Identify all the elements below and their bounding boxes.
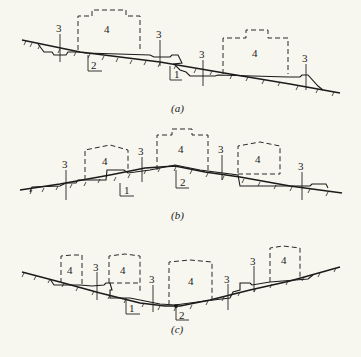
panel-b: 4 4 4 3 3 3 3 1 2 (b) <box>20 129 342 222</box>
caption-a: (a) <box>171 102 184 115</box>
label-4: 4 <box>67 264 73 276</box>
label-3: 3 <box>138 145 144 157</box>
label-2: 2 <box>91 59 97 71</box>
label-4: 4 <box>188 275 194 287</box>
terrace-section-diagram: 4 4 3 3 3 3 2 1 (a) 4 4 4 <box>0 0 361 357</box>
label-2: 2 <box>180 176 186 188</box>
label-4: 4 <box>178 143 184 155</box>
label-3: 3 <box>302 52 308 64</box>
panel-a: 4 4 3 3 3 3 2 1 (a) <box>22 10 340 115</box>
label-4: 4 <box>104 23 110 35</box>
caption-c: (c) <box>171 323 184 336</box>
label-3: 3 <box>156 28 162 40</box>
label-3: 3 <box>250 255 256 267</box>
label-3: 3 <box>149 273 155 285</box>
ground-line <box>22 40 340 93</box>
label-4: 4 <box>281 254 287 266</box>
label-1: 1 <box>129 302 135 314</box>
low-point-marker <box>174 304 178 308</box>
label-4: 4 <box>255 153 261 165</box>
label-3: 3 <box>224 273 230 285</box>
label-4: 4 <box>252 47 258 59</box>
label-3: 3 <box>56 22 62 34</box>
label-4: 4 <box>102 155 108 167</box>
label-1: 1 <box>174 68 180 80</box>
label-2: 2 <box>179 309 185 321</box>
label-1: 1 <box>124 184 130 196</box>
label-3: 3 <box>298 160 304 172</box>
label-3: 3 <box>218 143 224 155</box>
panel-c: 4 4 4 4 3 3 3 3 1 2 (c) <box>22 246 340 336</box>
caption-b: (b) <box>171 209 184 222</box>
label-4: 4 <box>120 264 126 276</box>
label-3: 3 <box>93 261 99 273</box>
label-3: 3 <box>62 158 68 170</box>
label-3: 3 <box>199 48 205 60</box>
